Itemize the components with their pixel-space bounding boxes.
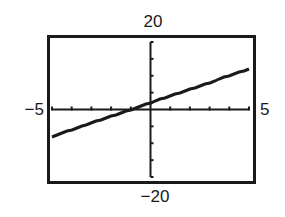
axes xyxy=(52,42,249,177)
calculator-graph-screen xyxy=(0,0,285,217)
